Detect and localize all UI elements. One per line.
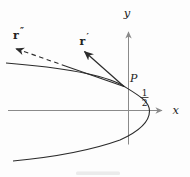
r-prime-label: r ′: [80, 32, 90, 48]
x-axis-label: x: [173, 103, 180, 117]
figure-canvas: y x r ′ r ″ P 1 2: [0, 0, 190, 177]
r-double-prime-vector: [16, 49, 124, 87]
r-prime-base: r: [80, 35, 86, 48]
parabola-figure: y x r ′ r ″ P 1 2: [0, 0, 190, 177]
fraction-denominator: 2: [142, 98, 148, 108]
fraction-numerator: 1: [142, 88, 148, 98]
r-double-prime-label: r ″: [13, 26, 24, 42]
point-p-label: P: [129, 72, 138, 85]
half-fraction: 1 2: [141, 88, 149, 108]
y-axis-label: y: [123, 6, 131, 20]
r-double-prime-base: r: [13, 29, 19, 42]
caption-remnant: [76, 172, 120, 176]
r-prime-mark: ′: [87, 32, 90, 42]
r-double-prime-mark: ″: [20, 26, 24, 36]
secant-dashed-segment: [16, 49, 66, 66]
parabola-curve: [6, 63, 150, 161]
r-prime-vector: [85, 52, 125, 87]
secant-solid-segment: [66, 66, 124, 86]
